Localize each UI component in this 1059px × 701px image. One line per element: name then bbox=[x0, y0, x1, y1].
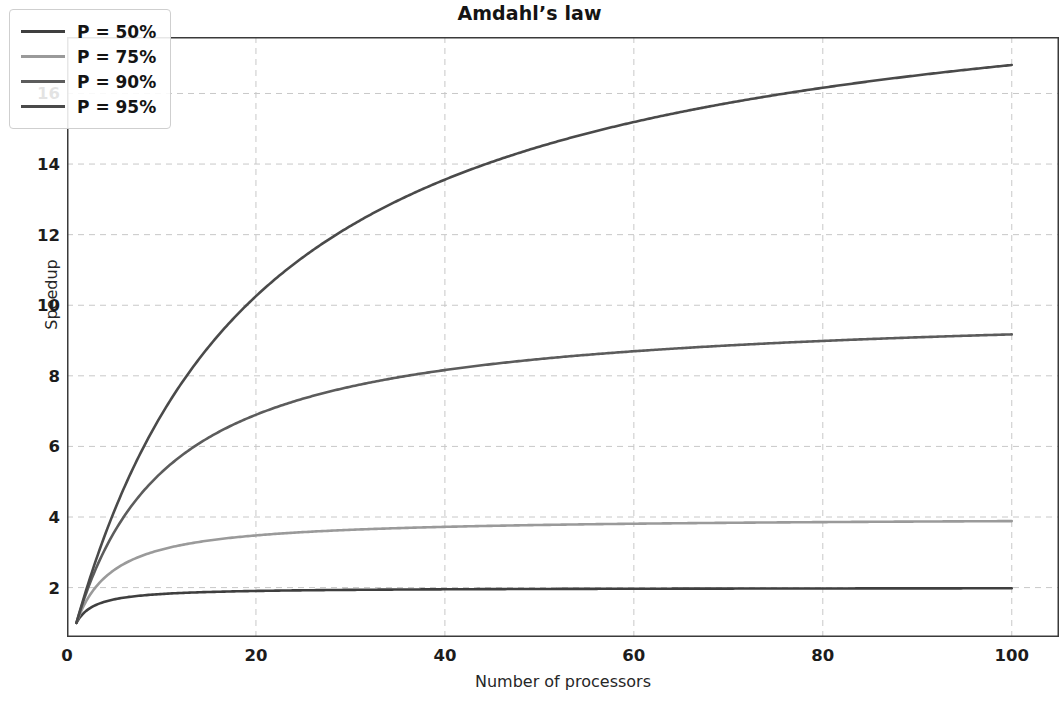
legend-item-label: P = 90% bbox=[77, 72, 156, 92]
y-tick-label-0: 2 bbox=[14, 578, 60, 597]
plot-canvas bbox=[67, 37, 1059, 637]
data-curve-2 bbox=[76, 334, 1011, 623]
data-curve-0 bbox=[76, 588, 1011, 623]
legend-item-0[interactable]: P = 50% bbox=[21, 19, 156, 44]
legend-line-swatch-icon bbox=[21, 80, 65, 83]
data-curves bbox=[76, 65, 1011, 623]
x-tick-label-0: 0 bbox=[27, 646, 107, 665]
legend-line-swatch-icon bbox=[21, 55, 65, 58]
legend-item-1[interactable]: P = 75% bbox=[21, 44, 156, 69]
y-tick-label-4: 10 bbox=[14, 296, 60, 315]
y-tick-label-5: 12 bbox=[14, 225, 60, 244]
amdahls-law-chart-figure: Amdahl’s law Speedup 246810121416 020406… bbox=[0, 0, 1059, 701]
x-tick-label-2: 40 bbox=[405, 646, 485, 665]
legend-item-3[interactable]: P = 95% bbox=[21, 94, 156, 119]
y-tick-label-6: 14 bbox=[14, 155, 60, 174]
legend-item-label: P = 50% bbox=[77, 22, 156, 42]
legend-item-2[interactable]: P = 90% bbox=[21, 69, 156, 94]
x-tick-label-4: 80 bbox=[783, 646, 863, 665]
x-axis-label: Number of processors bbox=[67, 672, 1059, 691]
x-tick-label-1: 20 bbox=[216, 646, 296, 665]
x-axis-tick-labels: 020406080100 bbox=[67, 646, 1059, 672]
x-tick-label-3: 60 bbox=[594, 646, 674, 665]
plot-area bbox=[67, 37, 1059, 637]
y-tick-label-2: 6 bbox=[14, 437, 60, 456]
chart-legend: P = 50%P = 75%P = 90%P = 95% bbox=[9, 9, 171, 129]
legend-line-swatch-icon bbox=[21, 30, 65, 33]
legend-line-swatch-icon bbox=[21, 105, 65, 108]
legend-item-label: P = 95% bbox=[77, 97, 156, 117]
x-tick-label-5: 100 bbox=[972, 646, 1052, 665]
data-curve-1 bbox=[76, 521, 1011, 623]
legend-item-label: P = 75% bbox=[77, 47, 156, 67]
y-tick-label-3: 8 bbox=[14, 366, 60, 385]
y-tick-label-1: 4 bbox=[14, 508, 60, 527]
